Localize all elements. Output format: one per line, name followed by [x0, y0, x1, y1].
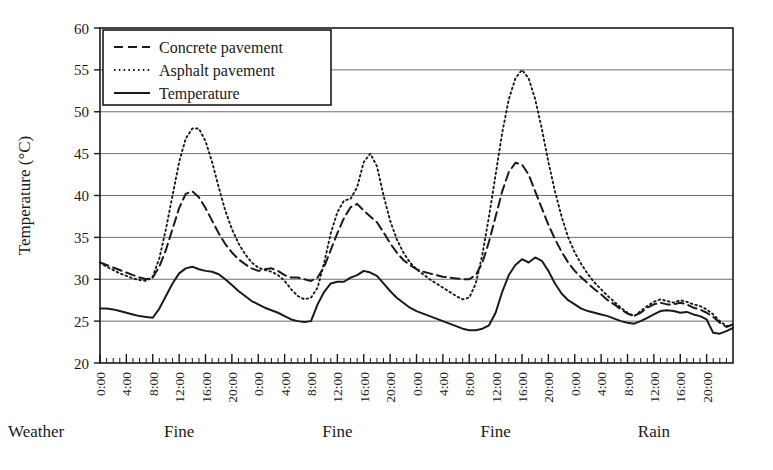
legend-item-label: Temperature	[159, 85, 240, 103]
x-axis-tick-label: 12:00	[330, 372, 345, 403]
series-line-asphalt-pavement	[100, 70, 733, 326]
x-axis-tick-label: 0:00	[93, 372, 108, 396]
x-axis-tick-label: 20:00	[383, 372, 398, 403]
legend-item-label: Asphalt pavement	[159, 62, 276, 80]
x-axis-tick-label: 8:00	[304, 372, 319, 396]
x-axis-tick-label: 12:00	[172, 372, 187, 403]
data-series-group	[100, 70, 733, 334]
y-axis-tick-label: 35	[74, 230, 89, 246]
x-axis-tick-label: 20:00	[700, 372, 715, 403]
y-axis-tick-label: 50	[74, 104, 89, 120]
temperature-chart-figure: 202530354045505560 0:004:008:0012:0016:0…	[0, 0, 773, 470]
x-axis-tick-label: 16:00	[199, 372, 214, 403]
y-axis-title: Temperature (°C)	[15, 136, 34, 255]
x-axis-tick-label: 8:00	[621, 372, 636, 396]
x-axis-tick-label: 8:00	[146, 372, 161, 396]
x-axis-tick-label: 4:00	[436, 372, 451, 396]
y-axis-tick-label: 55	[74, 62, 89, 78]
chart-canvas: 202530354045505560 0:004:008:0012:0016:0…	[0, 0, 773, 470]
y-axis-tick-label: 20	[74, 356, 89, 372]
weather-segment-label: Rain	[638, 422, 671, 441]
x-axis-tick-label: 16:00	[357, 372, 372, 403]
x-axis-tick-label: 20:00	[225, 372, 240, 403]
y-axis-tick-label: 40	[74, 188, 89, 204]
gridlines-group	[100, 70, 733, 321]
x-axis-tick-label: 4:00	[594, 372, 609, 396]
y-axis-tick-labels-group: 202530354045505560	[74, 21, 89, 372]
x-axis-tick-label: 12:00	[489, 372, 504, 403]
x-axis-tick-label: 16:00	[673, 372, 688, 403]
x-axis-tick-label: 20:00	[541, 372, 556, 403]
y-axis-tick-label: 30	[74, 272, 89, 288]
weather-segment-label: Fine	[164, 422, 194, 441]
x-axis-tick-label: 4:00	[119, 372, 134, 396]
x-axis-tick-label: 12:00	[647, 372, 662, 403]
y-axis-tick-label: 45	[74, 146, 89, 162]
legend-item-label: Concrete pavement	[159, 39, 284, 57]
x-axis-tick-label: 0:00	[568, 372, 583, 396]
weather-segment-label: Fine	[481, 422, 511, 441]
x-axis-tick-label: 0:00	[410, 372, 425, 396]
y-axis-tick-label: 60	[74, 21, 89, 37]
x-axis-tick-labels-group: 0:004:008:0012:0016:0020:000:004:008:001…	[93, 372, 715, 403]
x-axis-tick-label: 8:00	[462, 372, 477, 396]
y-axis-ticks-group	[94, 28, 100, 363]
weather-segment-label: Fine	[322, 422, 352, 441]
weather-axis-label: Weather	[8, 422, 65, 441]
y-axis-tick-label: 25	[74, 314, 89, 330]
chart-legend: Concrete pavementAsphalt pavementTempera…	[103, 30, 331, 105]
x-axis-tick-label: 16:00	[515, 372, 530, 403]
x-axis-tick-label: 0:00	[251, 372, 266, 396]
series-line-concrete-pavement	[100, 163, 733, 327]
weather-axis-group: WeatherFineFineFineRain	[8, 422, 670, 441]
x-axis-tick-label: 4:00	[278, 372, 293, 396]
